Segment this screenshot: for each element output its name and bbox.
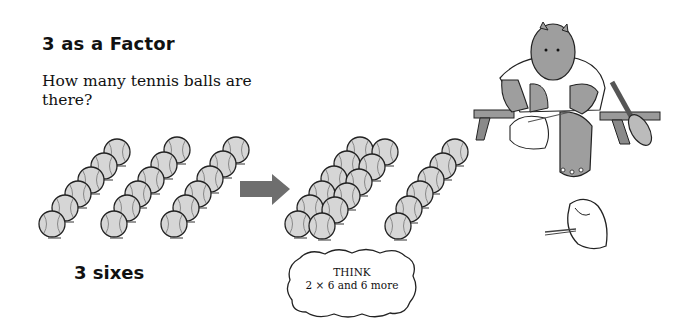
ball-group-left — [39, 137, 249, 238]
question-text: How many tennis balls are there? — [42, 72, 302, 110]
worksheet-page: 3 as a Factor How many tennis balls are … — [0, 0, 682, 327]
sneaker-illustration — [545, 199, 607, 248]
group-caption: 3 sixes — [74, 262, 144, 283]
right-arrow-icon — [240, 174, 290, 205]
page-title: 3 as a Factor — [42, 33, 175, 54]
think-bubble-text: THINK 2 × 6 and 6 more — [288, 266, 416, 292]
think-bubble-line2: 2 × 6 and 6 more — [288, 279, 416, 292]
think-bubble-line1: THINK — [288, 266, 416, 279]
hippo-illustration — [474, 22, 660, 177]
ball-group-double-row — [285, 137, 398, 240]
